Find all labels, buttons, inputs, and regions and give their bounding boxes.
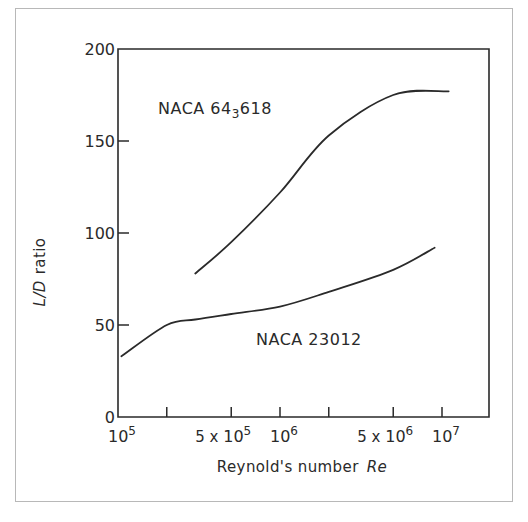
series-annotations: NACA 643618NACA 23012 bbox=[158, 99, 362, 349]
x-tick-label: 106 bbox=[270, 424, 298, 446]
data-curves bbox=[121, 91, 448, 357]
label-naca-23012: NACA 23012 bbox=[256, 330, 362, 349]
y-tick-label: 100 bbox=[84, 224, 115, 243]
y-axis-ticks: 050100150200 bbox=[84, 40, 129, 427]
label-naca-64-3-618: NACA 643618 bbox=[158, 99, 272, 121]
y-tick-label: 50 bbox=[95, 316, 115, 335]
lift-drag-chart: 050100150200 1055 x 1051065 x 106107 NAC… bbox=[0, 0, 528, 522]
x-tick-label: 105 bbox=[108, 424, 136, 446]
x-axis-ticks: 1055 x 1051065 x 106107 bbox=[108, 407, 460, 446]
x-tick-label: 5 x 106 bbox=[357, 424, 413, 446]
x-tick-label: 107 bbox=[432, 424, 460, 446]
y-axis-title: L/Dratio bbox=[31, 238, 49, 307]
y-tick-label: 200 bbox=[84, 40, 115, 59]
y-tick-label: 0 bbox=[105, 408, 115, 427]
x-axis-title: Reynold's numberRe bbox=[217, 458, 387, 476]
y-tick-label: 150 bbox=[84, 132, 115, 151]
x-tick-label: 5 x 105 bbox=[195, 424, 251, 446]
